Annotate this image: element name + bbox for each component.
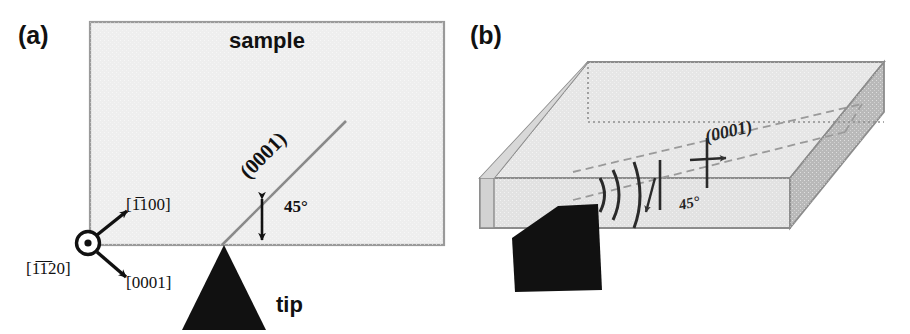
dir-1100-text: [1̅100]	[126, 195, 171, 214]
direction-label-1100: [1̅100]	[126, 195, 171, 214]
figure-root: (a) sample (0001) 45° tip [1̅100]	[0, 0, 910, 334]
direction-label-1120: [1̅1̅20]	[26, 259, 71, 278]
dir-1120-text: [1̅1̅20]	[26, 259, 71, 278]
tip-label-a: tip	[276, 292, 303, 317]
svg-text:[1̅100]: [1̅100]	[126, 195, 171, 214]
block-left-face	[480, 178, 494, 228]
dir-0001-text: [0001]	[126, 273, 171, 292]
sample-label: sample	[229, 28, 305, 53]
direction-label-0001: [0001]	[126, 273, 171, 292]
svg-text:[1̅1̅20]: [1̅1̅20]	[26, 259, 71, 278]
angle-label-a: 45°	[284, 197, 308, 216]
out-of-page-symbol	[77, 232, 100, 255]
svg-text:[0001]: [0001]	[126, 273, 171, 292]
panel-a-label: (a)	[18, 21, 49, 49]
figure-canvas: (a) sample (0001) 45° tip [1̅100]	[0, 0, 910, 334]
panel-b-label: (b)	[470, 21, 502, 49]
